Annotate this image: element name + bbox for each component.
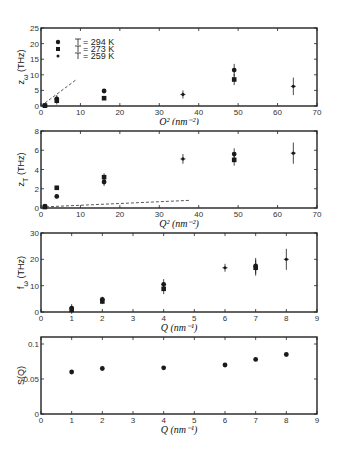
plot-structure-factor-svg: 012345678900.050.1Q (nm⁻¹)S(Q) [0, 0, 341, 465]
plot-frame [41, 337, 317, 414]
x-tick-label: 7 [253, 416, 258, 425]
data-point [253, 357, 258, 362]
data-point [161, 365, 166, 370]
y-tick-label: 0.1 [28, 340, 40, 349]
plot-structure-factor: 012345678900.050.1Q (nm⁻¹)S(Q) [0, 0, 341, 465]
data-point [69, 370, 74, 375]
x-axis-label: Q (nm⁻¹) [161, 424, 198, 436]
x-tick-label: 1 [69, 416, 74, 425]
x-tick-label: 9 [315, 416, 320, 425]
y-axis-label: S(Q) [16, 366, 26, 385]
data-point [284, 352, 289, 357]
data-point [100, 366, 105, 371]
x-tick-label: 0 [39, 416, 44, 425]
y-tick-label: 0 [35, 410, 40, 419]
x-tick-label: 2 [100, 416, 105, 425]
x-tick-label: 3 [131, 416, 136, 425]
x-tick-label: 6 [223, 416, 228, 425]
x-tick-label: 8 [284, 416, 289, 425]
data-point [223, 363, 228, 368]
